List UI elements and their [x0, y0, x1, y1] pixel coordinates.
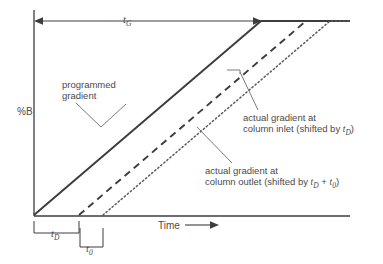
- column-outlet-label: actual gradient at column outlet (shifte…: [205, 165, 339, 191]
- column-inlet-leader: [227, 70, 258, 110]
- column-inlet-label-line1: actual gradient at: [243, 112, 354, 123]
- column-inlet-label: actual gradient at column inlet (shifted…: [243, 112, 354, 138]
- x-axis-label: Time: [158, 220, 180, 231]
- column-outlet-label-line2: column outlet (shifted by tD + t0): [205, 176, 339, 191]
- t0-label: t0: [86, 243, 93, 258]
- programmed-gradient-label-line1: programmed: [62, 79, 116, 90]
- tg-span-arrow: [34, 17, 262, 25]
- y-axis-label: %B: [17, 106, 33, 117]
- programmed-gradient-label-line2: gradient: [62, 90, 116, 101]
- td-label: tD: [51, 228, 59, 243]
- tg-label: tG: [123, 14, 131, 29]
- time-axis-arrow: [185, 221, 219, 229]
- column-outlet-label-line1: actual gradient at: [205, 165, 339, 176]
- programmed-gradient-leader: [76, 103, 126, 127]
- column-outlet-leader: [197, 127, 232, 163]
- programmed-gradient-label: programmed gradient: [62, 79, 116, 101]
- column-inlet-label-line2: column inlet (shifted by tD): [243, 123, 354, 138]
